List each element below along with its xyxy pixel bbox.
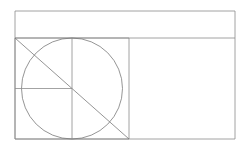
geometry-svg	[0, 0, 248, 148]
diagram-canvas	[0, 0, 248, 148]
outer-rectangle	[15, 11, 235, 139]
